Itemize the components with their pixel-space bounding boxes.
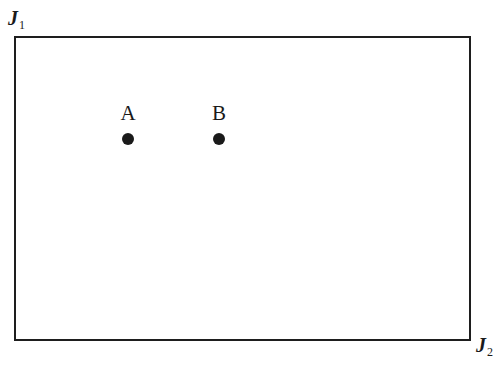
corner-label-j2: J2 <box>476 335 493 362</box>
corner-label-j1: J1 <box>8 8 25 35</box>
point-label-a: A <box>120 103 135 124</box>
corner-letter: J <box>476 334 486 356</box>
corner-subscript: 2 <box>487 345 493 359</box>
corner-letter: J <box>8 7 18 29</box>
corner-subscript: 1 <box>19 18 25 32</box>
rectangle-region <box>14 36 471 341</box>
point-a-dot <box>122 133 134 145</box>
point-label-b: B <box>212 103 226 124</box>
point-b-dot <box>213 133 225 145</box>
